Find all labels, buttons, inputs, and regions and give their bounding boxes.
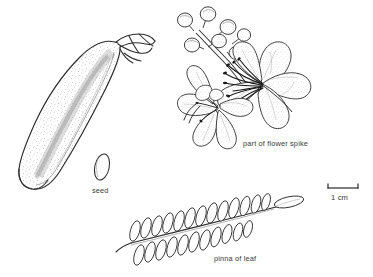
leaf-petiole <box>116 243 131 252</box>
bud <box>178 13 195 31</box>
petal <box>233 42 262 82</box>
pod-beak-tip <box>116 34 155 63</box>
illustration-canvas <box>0 0 373 277</box>
leaflets-upper-row <box>128 193 272 243</box>
bud <box>208 34 226 48</box>
specimen-pod <box>15 34 155 195</box>
bud <box>217 20 236 36</box>
specimen-seed <box>92 153 112 182</box>
botanical-plate: part of flower spike seed pinna of leaf … <box>0 0 373 277</box>
bud <box>184 38 204 52</box>
specimen-flower-spike <box>177 7 310 149</box>
bud <box>200 7 216 28</box>
label-seed: seed <box>92 186 109 195</box>
open-flower-lower <box>177 66 253 149</box>
specimen-pinna-of-leaf <box>116 193 305 267</box>
label-pinna-of-leaf: pinna of leaf <box>214 254 256 263</box>
seed-outline <box>92 153 112 182</box>
pod-stipple-texture <box>15 35 130 195</box>
label-scale-bar: 1 cm <box>331 193 348 202</box>
label-part-of-flower-spike: part of flower spike <box>243 139 308 148</box>
scale-bar <box>328 184 358 188</box>
